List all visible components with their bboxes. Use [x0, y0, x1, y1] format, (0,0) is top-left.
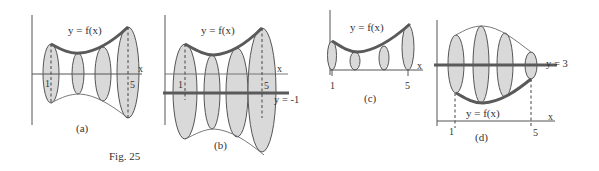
curve-mirror: [456, 26, 531, 52]
curve-label: y = f(x): [68, 24, 102, 37]
curve-mirror: [51, 94, 128, 118]
rotation-line-label: y = -1: [274, 94, 299, 105]
tick-label-5: 5: [264, 80, 269, 91]
tick-label-5: 5: [130, 79, 135, 90]
panel-label: (d): [475, 131, 488, 144]
cross-section-disk: [328, 41, 337, 70]
panel-label: (a): [76, 122, 89, 135]
panel-c: y = f(x) x 1 5 (c): [328, 10, 424, 105]
cross-section-disk: [350, 52, 360, 70]
panel-b: y = f(x) x 1 5 y = -1 (b): [163, 15, 299, 155]
cross-section-disk: [379, 46, 389, 70]
curve-label: y = f(x): [350, 21, 384, 34]
axis-label-x: x: [548, 111, 553, 122]
axis-label-x: x: [417, 60, 422, 71]
panel-a: y = f(x) x 1 5 (a): [32, 15, 143, 135]
panel-label: (c): [364, 92, 377, 105]
figure-25: y = f(x) x 1 5 (a) Fig. 25 y = f(x) x 1 …: [0, 0, 599, 171]
tick-label-1: 1: [45, 78, 50, 89]
figure-caption: Fig. 25: [109, 150, 141, 162]
figure-canvas: y = f(x) x 1 5 (a) Fig. 25 y = f(x) x 1 …: [0, 0, 599, 171]
tick-label-1: 1: [178, 79, 183, 90]
rotation-line-label: y = 3: [546, 58, 568, 69]
curve-f: [456, 79, 531, 103]
tick-label-1: 1: [330, 80, 335, 91]
axis-label-x: x: [138, 63, 143, 74]
tick-label-1: 1: [449, 126, 454, 137]
cross-section-disk: [402, 25, 414, 70]
axis-label-x: x: [277, 63, 282, 74]
panel-label: (b): [214, 139, 227, 152]
curve-label: y = f(x): [201, 24, 235, 37]
tick-label-5: 5: [533, 127, 538, 138]
curve-label: y = f(x): [466, 107, 500, 120]
panel-d: y = 3 y = f(x) x 1 5 (d): [434, 20, 568, 144]
tick-label-5: 5: [405, 80, 410, 91]
